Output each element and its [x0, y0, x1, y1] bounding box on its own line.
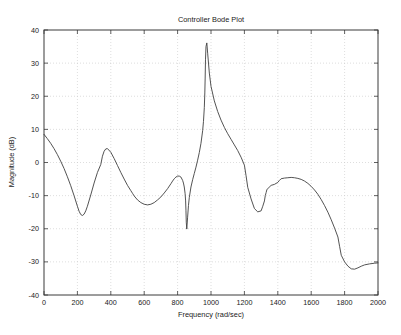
chart-canvas: 0200400600800100012001400160018002000 -4… — [0, 0, 401, 335]
x-tick-label: 2000 — [370, 298, 386, 307]
y-tick-label: -40 — [29, 291, 39, 300]
y-tick-label: 20 — [31, 92, 39, 101]
x-axis-label: Frequency (rad/sec) — [178, 310, 244, 319]
x-tick-label: 1800 — [337, 298, 353, 307]
chart-title: Controller Bode Plot — [178, 15, 244, 24]
x-tick-label: 1400 — [270, 298, 286, 307]
x-tick-label: 0 — [42, 298, 46, 307]
x-tick-label: 1000 — [203, 298, 219, 307]
x-tick-label: 600 — [138, 298, 150, 307]
y-tick-label: 0 — [35, 158, 39, 167]
bode-plot-figure: 0200400600800100012001400160018002000 -4… — [0, 0, 401, 335]
y-tick-label: 30 — [31, 59, 39, 68]
y-tick-label: -30 — [29, 257, 39, 266]
x-tick-label: 400 — [105, 298, 117, 307]
y-tick-label: 10 — [31, 125, 39, 134]
x-tick-label: 1200 — [236, 298, 252, 307]
x-tick-label: 800 — [172, 298, 184, 307]
y-tick-label: -10 — [29, 191, 39, 200]
y-tick-label: 40 — [31, 26, 39, 35]
y-axis-label: Magnitude (dB) — [7, 137, 16, 188]
x-tick-label: 1600 — [303, 298, 319, 307]
x-tick-label: 200 — [71, 298, 83, 307]
y-tick-label: -20 — [29, 224, 39, 233]
